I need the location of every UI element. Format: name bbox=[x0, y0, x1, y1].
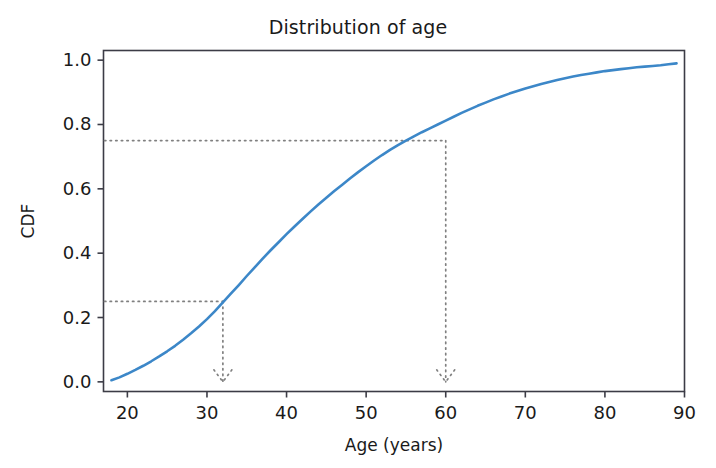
x-tick-label: 70 bbox=[514, 402, 537, 423]
y-axis-title: CDF bbox=[18, 204, 38, 239]
first-quartile-guide-arrow-right bbox=[223, 370, 232, 382]
y-tick-label: 0.8 bbox=[63, 113, 92, 134]
x-tick-label: 20 bbox=[116, 402, 139, 423]
x-tick-label: 90 bbox=[673, 402, 696, 423]
y-tick-label: 0.4 bbox=[63, 242, 92, 263]
cdf-line bbox=[111, 63, 676, 380]
y-tick-label: 0.2 bbox=[63, 307, 92, 328]
chart-canvas: 2030405060708090 0.00.20.40.60.81.0 Age … bbox=[0, 0, 716, 468]
plot-frame bbox=[104, 51, 685, 392]
x-axis-title: Age (years) bbox=[345, 435, 443, 455]
y-tick-label: 0.6 bbox=[63, 178, 92, 199]
x-tick-label: 50 bbox=[355, 402, 378, 423]
x-tick-label: 30 bbox=[196, 402, 219, 423]
data-series bbox=[111, 63, 676, 380]
third-quartile-guide-arrow-right bbox=[446, 370, 455, 382]
x-tick-label: 60 bbox=[434, 402, 457, 423]
x-axis-ticks: 2030405060708090 bbox=[116, 392, 696, 423]
x-tick-label: 80 bbox=[593, 402, 616, 423]
y-tick-label: 1.0 bbox=[63, 49, 92, 70]
annotation-guides bbox=[105, 141, 455, 382]
third-quartile-guide-arrow-left bbox=[437, 370, 446, 382]
chart-figure: Distribution of age 2030405060708090 0.0… bbox=[0, 0, 716, 468]
y-tick-label: 0.0 bbox=[63, 371, 92, 392]
y-axis-ticks: 0.00.20.40.60.81.0 bbox=[63, 49, 104, 392]
first-quartile-guide-arrow-left bbox=[214, 370, 223, 382]
x-tick-label: 40 bbox=[275, 402, 298, 423]
